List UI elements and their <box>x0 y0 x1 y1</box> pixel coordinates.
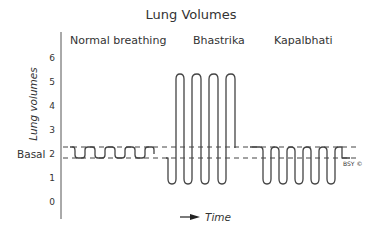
y-tick-1: 1 <box>49 173 55 183</box>
section-label-bhastrika: Bhastrika <box>193 34 245 47</box>
lung-volumes-diagram: Lung Volumes Normal breathing Bhastrika … <box>0 0 382 237</box>
y-tick-3: 3 <box>49 125 55 135</box>
y-axis-label: Lung volumes <box>27 67 39 141</box>
normal-breathing-trace <box>70 147 154 158</box>
chart-title: Lung Volumes <box>146 7 237 22</box>
credit-text: BSY © <box>343 160 362 167</box>
y-tick-5: 5 <box>49 77 55 87</box>
section-label-kapalbhati: Kapalbhati <box>274 34 333 47</box>
basal-label: Basal <box>17 148 45 160</box>
x-axis-label: Time <box>205 211 231 223</box>
time-arrow-icon <box>180 214 200 220</box>
y-tick-labels: 6 5 4 3 2 1 0 <box>49 53 55 207</box>
bhastrika-trace <box>166 74 235 184</box>
kapalbhati-trace <box>250 147 350 184</box>
y-tick-0: 0 <box>49 197 55 207</box>
y-tick-4: 4 <box>49 101 55 111</box>
y-tick-6: 6 <box>49 53 55 63</box>
section-label-normal-breathing: Normal breathing <box>70 34 166 47</box>
y-tick-2: 2 <box>49 149 55 159</box>
